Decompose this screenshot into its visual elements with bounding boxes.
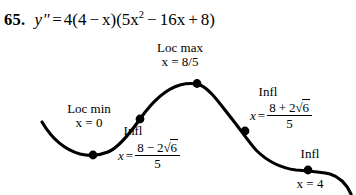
label-loc-max: Loc max x = 8/5	[148, 41, 212, 69]
infl-1-num-op: −	[144, 140, 157, 155]
infl-2-num-a: 8	[269, 100, 276, 115]
label-infl-1-value: x= 8−2√6 5	[118, 140, 180, 171]
label-infl-2-fraction: 8+2√6 5	[267, 100, 312, 131]
label-infl-1-kind: Infl	[116, 124, 150, 138]
label-infl-2-equals: =	[258, 108, 267, 124]
label-infl-2-denominator: 5	[267, 116, 312, 131]
infl-2-num-op: +	[276, 100, 289, 115]
label-loc-max-value: x = 8/5	[148, 55, 212, 69]
label-infl-3: Infl x = 4	[286, 147, 334, 191]
label-infl-1-equals: =	[126, 148, 135, 164]
label-infl-1-denominator: 5	[135, 156, 180, 171]
label-infl-1-numerator: 8−2√6	[135, 140, 180, 156]
label-infl-2-value: x= 8+2√6 5	[250, 100, 312, 131]
label-infl-3-kind: Infl	[286, 147, 334, 161]
label-loc-min-value: x = 0	[56, 116, 122, 130]
label-infl-3-value: x = 4	[286, 177, 334, 191]
label-infl-1-lhs: x	[118, 148, 126, 164]
infl-2-num-radicand: 6	[302, 99, 311, 115]
infl-1-num-radicand: 6	[170, 139, 179, 155]
point-loc-min	[89, 151, 98, 160]
label-loc-min-kind: Loc min	[56, 102, 122, 116]
point-loc-max	[193, 79, 202, 88]
sqrt-icon: √6	[295, 100, 310, 115]
point-infl-2	[241, 127, 250, 136]
infl-1-num-a: 8	[137, 140, 144, 155]
figure-stage: 65. y″=4(4−x)(5x2−16x+8) Loc max x = 8/5…	[0, 0, 356, 195]
label-loc-max-kind: Loc max	[148, 41, 212, 55]
label-loc-min: Loc min x = 0	[56, 102, 122, 130]
sqrt-icon: √6	[163, 140, 178, 155]
label-infl-1-fraction: 8−2√6 5	[135, 140, 180, 171]
label-infl-2-kind: Infl	[251, 85, 285, 99]
label-infl-2-numerator: 8+2√6	[267, 100, 312, 116]
label-infl-2-lhs: x	[250, 108, 258, 124]
